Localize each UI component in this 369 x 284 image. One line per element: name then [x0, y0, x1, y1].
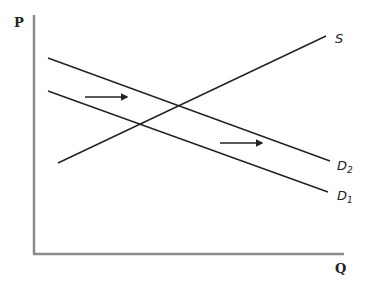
demand-curve-d2 — [48, 58, 330, 161]
supply-demand-diagram: P Q S D2 D1 — [0, 0, 369, 284]
x-axis-label: Q — [335, 261, 346, 276]
supply-label: S — [335, 31, 343, 46]
d2-label: D2 — [337, 158, 353, 175]
y-axis-label: P — [14, 15, 24, 30]
demand-curve-d1 — [48, 91, 328, 192]
d1-label: D1 — [337, 188, 353, 205]
supply-curve — [58, 36, 326, 163]
